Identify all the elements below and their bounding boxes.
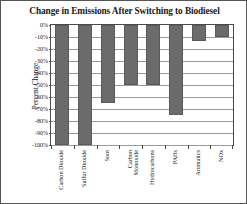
x-tick-label: Soot — [104, 150, 110, 204]
bar — [55, 25, 69, 145]
y-axis-title: Percent Change — [31, 25, 43, 147]
bar — [78, 25, 92, 145]
bar — [192, 25, 206, 41]
x-axis-ticks: Carbon DioxideSulfur DioxideSootCarbon M… — [50, 150, 234, 204]
x-tick-label: Sulfur Dioxide — [81, 150, 87, 204]
x-tick-label: Carbon Dioxide — [58, 150, 64, 204]
bar — [169, 25, 183, 115]
x-tick-label: Hydrocarbons — [149, 150, 155, 204]
plot-area: 0%-10%-20%-30%-40%-50%-60%-70%-80%-90%-1… — [50, 24, 234, 146]
x-tick-mark — [97, 145, 98, 149]
x-tick-label: Aromatics — [195, 150, 201, 204]
x-tick-mark — [142, 145, 143, 149]
x-tick-label: Carbon Monoxide — [127, 150, 140, 204]
x-tick-label: NOx — [218, 150, 224, 204]
chart-figure: Change in Emissions After Switching to B… — [0, 0, 247, 204]
x-tick-mark — [51, 145, 52, 149]
chart-title: Change in Emissions After Switching to B… — [1, 6, 247, 16]
x-tick-mark — [232, 145, 233, 149]
bar — [101, 25, 115, 103]
bar — [146, 25, 160, 85]
x-tick-mark — [74, 145, 75, 149]
x-tick-mark — [210, 145, 211, 149]
bar — [124, 25, 138, 85]
x-tick-mark — [188, 145, 189, 149]
x-tick-label: PAHs — [172, 150, 178, 204]
bar — [215, 25, 229, 37]
bars-layer — [51, 25, 233, 145]
x-tick-mark — [119, 145, 120, 149]
x-tick-mark — [165, 145, 166, 149]
